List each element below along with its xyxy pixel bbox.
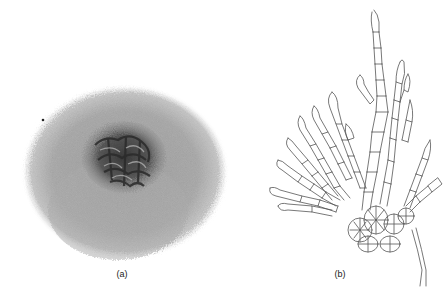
hyphae-line-drawing: [260, 0, 446, 295]
panel-a-caption: (a): [102, 269, 142, 279]
colony-image: [0, 0, 260, 295]
panel-b-hyphae-drawing: [260, 0, 446, 295]
panel-b-caption: (b): [320, 269, 360, 279]
panel-a-colony-photo: [0, 0, 260, 295]
